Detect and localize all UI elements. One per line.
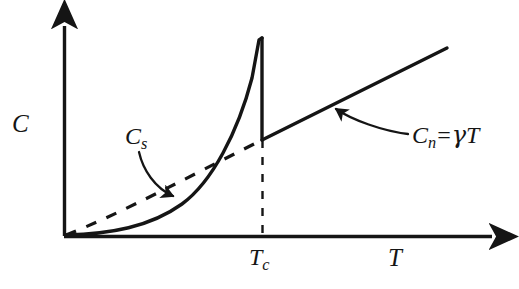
tc-subscript: c [262,255,269,274]
tc-tick-label: Tc [249,245,270,273]
cn-subscript: n [428,133,436,152]
cs-curve-label: Cs [125,124,147,152]
gamma-symbol: γ [452,121,466,149]
specific-heat-diagram: C T Tc Cs Cn=γT [0,0,519,289]
cs-subscript: s [141,134,147,153]
cn-curve-label: Cn=γT [412,123,479,151]
y-axis-label: C [12,111,29,136]
cn-main: C [412,122,428,148]
tc-main: T [249,244,262,270]
cn-annotation-arrow [336,109,408,134]
cn-temperature-variable: T [466,122,479,148]
cn-equals: = [436,122,452,148]
normal-state-extrapolation-dashed [66,140,262,235]
superconducting-specific-heat-curve [66,38,262,235]
cs-main: C [125,123,141,149]
x-axis-label: T [388,245,402,270]
